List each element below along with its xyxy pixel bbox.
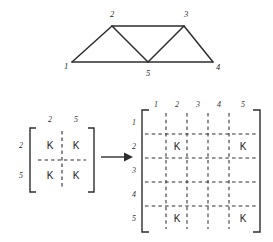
global-matrix-cell-4-1: K bbox=[174, 214, 181, 224]
right-bracket bbox=[253, 110, 260, 232]
global-matrix-col-label-2: 3 bbox=[196, 101, 200, 109]
global-stiffness-matrix: 1 2 3 4 5 1 2 3 4 5 K K K K bbox=[0, 0, 273, 242]
global-matrix-cell-1-4: K bbox=[240, 142, 247, 152]
global-matrix-row-label-2: 3 bbox=[132, 167, 136, 175]
global-matrix-cell-4-4: K bbox=[240, 214, 247, 224]
global-matrix-row-label-1: 2 bbox=[132, 143, 136, 151]
global-matrix-cell-1-1: K bbox=[174, 142, 181, 152]
global-matrix-graphics bbox=[0, 0, 273, 242]
global-matrix-row-label-0: 1 bbox=[132, 119, 136, 127]
global-matrix-col-label-0: 1 bbox=[154, 101, 158, 109]
figure-root: 1 2 3 4 5 2 5 2 5 K K K K bbox=[0, 0, 273, 242]
global-matrix-col-label-1: 2 bbox=[175, 101, 179, 109]
global-matrix-row-label-4: 5 bbox=[132, 215, 136, 223]
global-matrix-col-label-4: 5 bbox=[241, 101, 245, 109]
left-bracket bbox=[142, 110, 149, 232]
global-matrix-col-label-3: 4 bbox=[217, 101, 221, 109]
global-matrix-row-label-3: 4 bbox=[132, 191, 136, 199]
